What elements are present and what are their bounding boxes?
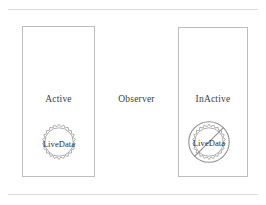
starburst-seal-prohibited-icon: [185, 121, 233, 167]
livedata-badge-inactive: LiveData: [185, 121, 233, 165]
diagram-canvas: Active LiveData Observer InActive LiveDa…: [0, 0, 266, 205]
state-label-inactive: InActive: [178, 94, 248, 104]
starburst-seal-icon: [35, 122, 83, 166]
top-divider-line: [8, 9, 258, 10]
observer-label: Observer: [95, 94, 178, 104]
bottom-divider-line: [8, 194, 258, 195]
livedata-badge-active: LiveData: [35, 122, 83, 166]
state-label-active: Active: [22, 94, 95, 104]
